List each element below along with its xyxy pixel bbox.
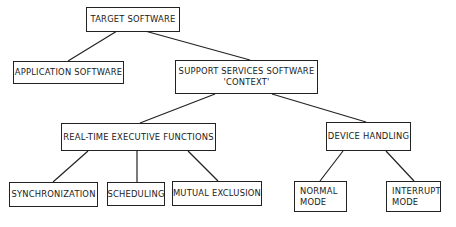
edge-target-to-application — [68, 31, 117, 61]
node-synchronization: SYNCHRONIZATION — [9, 182, 98, 207]
node-real-time-executive-functions: REAL-TIME EXECUTIVE FUNCTIONS — [61, 123, 216, 151]
node-application-software: APPLICATION SOFTWARE — [13, 61, 124, 84]
node-label-line2: MODE — [392, 197, 418, 208]
edge-support-to-device — [272, 94, 366, 122]
node-label: REAL-TIME EXECUTIVE FUNCTIONS — [63, 132, 214, 143]
node-scheduling: SCHEDULING — [107, 182, 165, 206]
node-device-handling: DEVICE HANDLING — [326, 122, 411, 151]
node-label: SYNCHRONIZATION — [11, 189, 95, 200]
edge-device-to-interrupt — [386, 151, 414, 181]
node-mutual-exclusion: MUTUAL EXCLUSION — [172, 181, 262, 206]
node-label-line2: 'CONTEXT' — [223, 77, 269, 88]
node-label-line1: NORMAL — [300, 186, 338, 197]
node-support-services-software: SUPPORT SERVICES SOFTWARE 'CONTEXT' — [175, 60, 318, 94]
node-label-line1: SUPPORT SERVICES SOFTWARE — [179, 66, 315, 77]
node-label-line2: MODE — [300, 197, 326, 208]
edge-target-to-support — [145, 31, 250, 60]
node-label: DEVICE HANDLING — [328, 131, 409, 142]
edge-device-to-normal — [320, 151, 343, 181]
edge-realtime-to-sync — [53, 151, 88, 182]
node-label: APPLICATION SOFTWARE — [15, 67, 122, 78]
node-interrupt-mode: INTERRUPT MODE — [386, 181, 441, 212]
node-label: SCHEDULING — [107, 189, 164, 200]
node-normal-mode: NORMAL MODE — [294, 181, 347, 212]
node-target-software: TARGET SOFTWARE — [86, 7, 180, 32]
node-label: TARGET SOFTWARE — [91, 14, 176, 25]
edge-realtime-to-mutex — [188, 151, 218, 181]
node-label: MUTUAL EXCLUSION — [173, 188, 261, 199]
node-label-line1: INTERRUPT — [392, 186, 441, 197]
edge-support-to-realtime — [140, 94, 215, 123]
